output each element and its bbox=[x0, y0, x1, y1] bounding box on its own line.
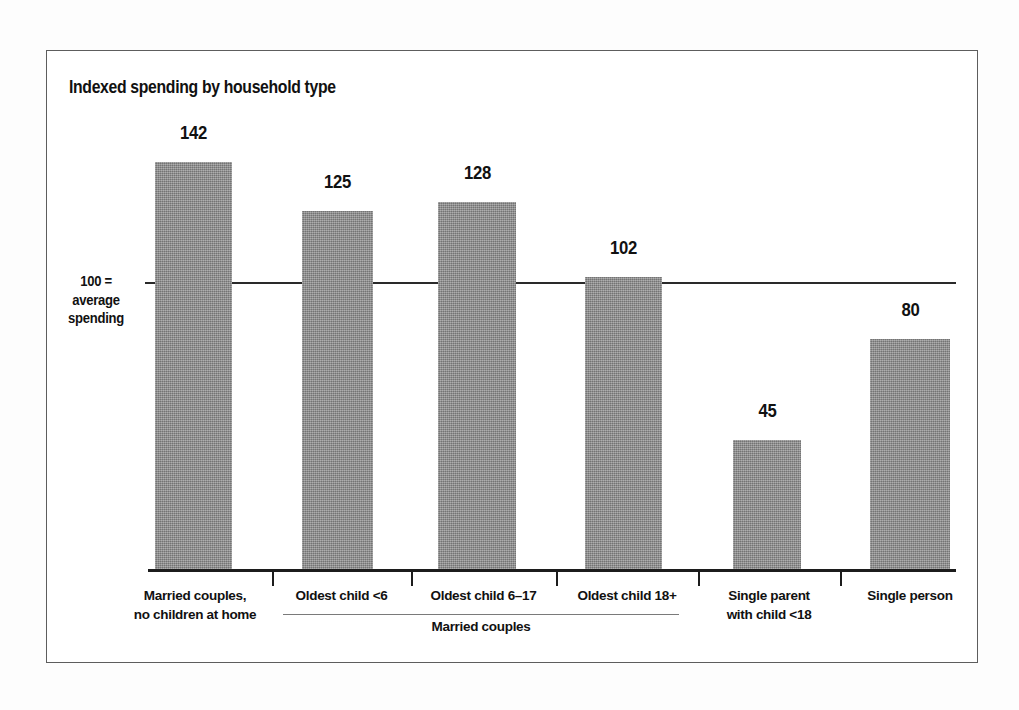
category-label-oldest-child-18-plus: Oldest child 18+ bbox=[556, 586, 698, 605]
category-label-single-parent: Single parent with child <18 bbox=[698, 586, 840, 624]
x-axis-baseline bbox=[148, 569, 956, 572]
group-bracket-line bbox=[283, 614, 679, 615]
category-label-line1: Single person bbox=[867, 588, 952, 603]
axis-tick-separator bbox=[556, 572, 558, 586]
category-label-single-person: Single person bbox=[840, 586, 980, 605]
bar-oldest-child-18-plus bbox=[585, 277, 662, 569]
reference-label-line3: spending bbox=[68, 310, 124, 326]
reference-line-100 bbox=[168, 282, 956, 284]
reference-label-line2: average bbox=[72, 292, 119, 308]
bar-single-parent bbox=[733, 440, 801, 569]
category-label-oldest-child-6-17: Oldest child 6–17 bbox=[411, 586, 556, 605]
category-label-line1: Single parent bbox=[728, 588, 810, 603]
bar-value-label: 142 bbox=[149, 122, 238, 144]
bar-value-label: 80 bbox=[866, 299, 955, 321]
plot-area: 100 = average spending 142 125 128 102 4… bbox=[0, 0, 1019, 710]
bar-value-label: 102 bbox=[579, 237, 668, 259]
bar-value-label: 125 bbox=[293, 171, 382, 193]
axis-tick-separator bbox=[840, 572, 842, 586]
figure-canvas: Indexed spending by household type 100 =… bbox=[0, 0, 1019, 710]
reference-line-label: 100 = average spending bbox=[56, 272, 135, 328]
category-label-line1: Oldest child <6 bbox=[296, 588, 388, 603]
category-label-married-no-children: Married couples, no children at home bbox=[115, 586, 275, 624]
axis-tick-separator bbox=[698, 572, 700, 586]
category-label-line1: Oldest child 18+ bbox=[577, 588, 676, 603]
reference-label-line1: 100 = bbox=[80, 273, 112, 289]
bar-oldest-child-6-17 bbox=[438, 202, 516, 569]
category-label-line2: no children at home bbox=[115, 605, 275, 624]
axis-tick-separator bbox=[411, 572, 413, 586]
axis-tick-separator bbox=[272, 572, 274, 586]
bar-value-label: 45 bbox=[723, 400, 812, 422]
bar-single-person bbox=[870, 339, 950, 569]
category-label-line1: Oldest child 6–17 bbox=[431, 588, 537, 603]
category-label-line2: with child <18 bbox=[698, 605, 840, 624]
bar-oldest-child-under-6 bbox=[302, 211, 373, 569]
group-bracket-label: Married couples bbox=[283, 619, 679, 634]
category-label-line1: Married couples, bbox=[144, 588, 246, 603]
bar-value-label: 128 bbox=[433, 162, 522, 184]
bar-married-no-children bbox=[155, 162, 232, 569]
category-label-oldest-child-under-6: Oldest child <6 bbox=[272, 586, 411, 605]
